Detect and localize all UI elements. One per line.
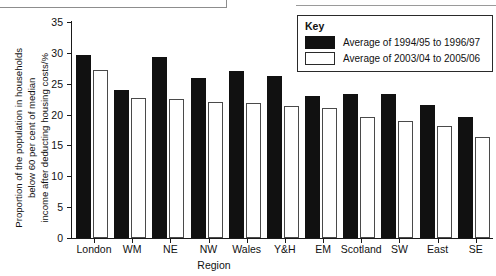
y-axis-tick-label: 30 <box>51 48 63 59</box>
legend-swatch <box>305 52 335 65</box>
bar <box>267 76 282 238</box>
x-axis-tick-label: East <box>427 244 448 255</box>
y-axis-tick-label: 15 <box>51 140 63 151</box>
x-axis-title-text: Region <box>197 259 230 271</box>
y-axis-tick-mark <box>67 115 72 116</box>
legend: Key Average of 1994/95 to 1996/97Average… <box>297 15 493 72</box>
legend-swatch <box>305 36 335 49</box>
legend-entry: Average of 1994/95 to 1996/97 <box>305 36 486 49</box>
bar-group: NW <box>191 22 229 238</box>
bar-group: London <box>76 22 114 238</box>
legend-entry-label: Average of 1994/95 to 1996/97 <box>343 37 480 48</box>
bar <box>322 108 337 238</box>
bar-group: WM <box>114 22 152 238</box>
bar <box>475 137 490 238</box>
x-axis-tick-label: WM <box>123 244 142 255</box>
bar <box>229 71 244 238</box>
y-axis-tick-label: 25 <box>51 78 63 89</box>
y-axis-title: Proportion of the population in househol… <box>12 10 52 266</box>
x-axis-tick-label: Y&H <box>274 244 296 255</box>
y-axis-tick-label: 10 <box>51 171 63 182</box>
y-axis-tick-mark <box>67 53 72 54</box>
y-axis-tick-mark <box>67 238 72 239</box>
legend-entry-label: Average of 2003/04 to 2005/06 <box>343 53 480 64</box>
bar <box>458 117 473 238</box>
x-axis-tick-label: SW <box>391 244 408 255</box>
x-axis-tick-label: NE <box>163 244 178 255</box>
bar <box>76 55 91 238</box>
bar <box>246 103 261 238</box>
bar <box>152 57 167 238</box>
y-axis-tick-label: 0 <box>57 233 63 244</box>
x-axis-tick-label: NW <box>200 244 218 255</box>
x-axis-title: Region <box>0 259 496 271</box>
legend-entry: Average of 2003/04 to 2005/06 <box>305 52 486 65</box>
bar-group: NE <box>152 22 190 238</box>
bar <box>131 98 146 238</box>
bar <box>191 78 206 238</box>
y-axis-tick-mark <box>67 84 72 85</box>
legend-title: Key <box>305 20 486 32</box>
legend-entries: Average of 1994/95 to 1996/97Average of … <box>305 36 486 65</box>
bar <box>208 102 223 238</box>
bar <box>420 105 435 238</box>
y-axis-tick-mark <box>67 22 72 23</box>
y-axis-tick-label: 20 <box>51 109 63 120</box>
y-axis-tick-mark <box>67 145 72 146</box>
y-axis-title-line-3: income after deducting housing costs/% <box>39 10 52 266</box>
bar <box>169 99 184 238</box>
x-axis-line <box>71 238 493 239</box>
x-axis-tick-label: London <box>76 244 111 255</box>
bar <box>398 121 413 238</box>
x-axis-tick-label: EM <box>315 244 331 255</box>
y-axis-title-line-2: below 60 per cent of median <box>25 10 38 266</box>
bar <box>114 90 129 238</box>
bar-chart: Proportion of the population in househol… <box>0 0 496 276</box>
y-axis-tick-mark <box>67 207 72 208</box>
bar <box>381 94 396 238</box>
x-axis-tick-label: SE <box>469 244 483 255</box>
bar <box>305 96 320 238</box>
y-axis-title-line-1: Proportion of the population in househol… <box>12 10 25 266</box>
bar <box>284 106 299 238</box>
y-axis-tick-label: 5 <box>57 202 63 213</box>
bar <box>360 117 375 238</box>
bar <box>437 126 452 238</box>
x-axis-tick-label: Scotland <box>341 244 382 255</box>
bar <box>93 70 108 238</box>
bar-group: Wales <box>229 22 267 238</box>
x-axis-tick-label: Wales <box>232 244 261 255</box>
bar <box>343 94 358 238</box>
y-axis-tick-mark <box>67 176 72 177</box>
y-axis-tick-label: 35 <box>51 17 63 28</box>
